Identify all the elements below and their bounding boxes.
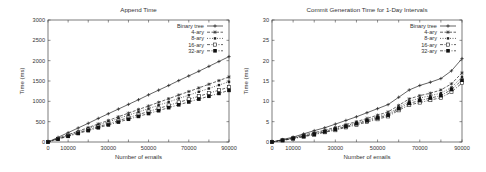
- data-point-marker: [429, 96, 433, 100]
- x-tick-label: 30000: [328, 145, 344, 151]
- data-point-marker: [281, 139, 285, 143]
- data-point-marker: [227, 86, 230, 89]
- x-axis-label: Number of emails: [343, 154, 390, 160]
- legend-label: 32-ary: [421, 48, 437, 54]
- data-point-marker: [198, 91, 200, 93]
- x-tick-label: 50000: [141, 145, 157, 151]
- data-point-marker: [408, 97, 411, 100]
- data-point-marker: [376, 107, 379, 110]
- legend-marker: [213, 43, 216, 46]
- data-point-marker: [344, 119, 347, 122]
- chart-title: Commit Generation Time for 1-Day Interva…: [306, 6, 427, 13]
- y-tick-label: 30: [263, 17, 269, 23]
- data-point-marker: [418, 84, 421, 87]
- data-point-marker: [137, 98, 140, 101]
- legend-marker: [446, 49, 450, 53]
- y-tick-label: 2500: [33, 37, 45, 43]
- data-point-marker: [228, 81, 230, 83]
- data-point-marker: [187, 100, 191, 104]
- data-point-marker: [334, 128, 338, 132]
- data-point-marker: [218, 84, 220, 86]
- legend-label: Binary tree: [177, 23, 204, 29]
- data-point-marker: [117, 120, 121, 124]
- commit-generation-time-chart: Commit Generation Time for 1-Day Interva…: [243, 0, 486, 172]
- data-point-marker: [344, 125, 348, 129]
- x-tick-label: 70000: [181, 145, 197, 151]
- data-point-marker: [178, 97, 180, 99]
- data-point-marker: [355, 115, 358, 118]
- data-point-marker: [407, 102, 411, 106]
- data-point-marker: [208, 87, 210, 89]
- legend: Binary tree4-ary8-ary16-ary32-ary: [410, 23, 456, 54]
- data-point-marker: [460, 78, 464, 82]
- data-point-marker: [107, 123, 111, 127]
- data-point-marker: [302, 135, 306, 139]
- data-point-marker: [147, 107, 149, 109]
- y-tick-label: 0: [266, 139, 269, 145]
- y-tick-label: 20: [263, 58, 269, 64]
- legend: Binary tree4-ary8-ary16-ary32-ary: [177, 23, 223, 54]
- legend-marker: [446, 24, 449, 27]
- legend-label: 16-ary: [421, 42, 437, 48]
- legend-label: 8-ary: [424, 35, 437, 41]
- data-point-marker: [187, 74, 190, 77]
- data-point-marker: [217, 92, 221, 96]
- data-point-marker: [46, 140, 50, 144]
- data-point-marker: [460, 71, 463, 74]
- data-point-marker: [429, 92, 432, 95]
- data-point-marker: [439, 94, 443, 98]
- data-point-marker: [461, 76, 463, 78]
- y-tick-label: 10: [263, 98, 269, 104]
- x-tick-label: 30000: [101, 145, 117, 151]
- legend-label: 16-ary: [188, 42, 204, 48]
- data-point-marker: [147, 112, 151, 116]
- data-point-marker: [397, 107, 401, 111]
- data-point-marker: [418, 94, 421, 97]
- x-axis-label: Number of emails: [115, 154, 162, 160]
- legend-label: 4-ary: [424, 29, 437, 35]
- data-point-marker: [96, 126, 100, 130]
- data-point-marker: [137, 115, 141, 119]
- y-tick-label: 0: [42, 139, 45, 145]
- y-tick-label: 25: [263, 37, 269, 43]
- data-point-marker: [188, 94, 190, 96]
- y-axis-label: Time (ms): [243, 68, 249, 95]
- legend-label: 8-ary: [191, 35, 204, 41]
- data-point-marker: [167, 84, 170, 87]
- series-16-ary: [46, 86, 230, 144]
- data-point-marker: [227, 89, 231, 93]
- data-point-marker: [439, 88, 442, 91]
- x-tick-label: 0: [46, 145, 49, 151]
- y-tick-label: 1500: [33, 78, 45, 84]
- y-tick-label: 5: [266, 119, 269, 125]
- data-point-marker: [207, 92, 210, 95]
- y-axis-label: Time (ms): [19, 68, 25, 95]
- data-point-marker: [429, 81, 432, 84]
- append-time-chart: Append Time05001000150020002500300001000…: [0, 0, 243, 172]
- data-point-marker: [177, 103, 181, 107]
- data-point-marker: [147, 93, 150, 96]
- data-point-marker: [187, 90, 190, 93]
- data-point-marker: [207, 65, 210, 68]
- series-8-ary: [47, 81, 230, 144]
- data-point-marker: [217, 79, 220, 82]
- y-tick-label: 15: [263, 78, 269, 84]
- data-point-marker: [147, 104, 150, 107]
- data-point-marker: [97, 117, 100, 120]
- series-binary-tree: [270, 57, 463, 144]
- data-point-marker: [386, 113, 390, 117]
- legend-marker: [447, 37, 449, 39]
- x-tick-label: 0: [270, 145, 273, 151]
- legend-label: 4-ary: [191, 29, 204, 35]
- x-tick-label: 70000: [412, 145, 428, 151]
- data-point-marker: [418, 99, 422, 103]
- data-point-marker: [207, 83, 210, 86]
- data-point-marker: [227, 75, 230, 78]
- data-point-marker: [355, 122, 359, 126]
- legend-marker: [446, 31, 449, 34]
- legend-marker: [213, 31, 216, 34]
- data-point-marker: [270, 140, 274, 144]
- data-point-marker: [86, 129, 90, 133]
- data-point-marker: [167, 101, 169, 103]
- x-axis: 01000030000500007000090000: [46, 20, 236, 151]
